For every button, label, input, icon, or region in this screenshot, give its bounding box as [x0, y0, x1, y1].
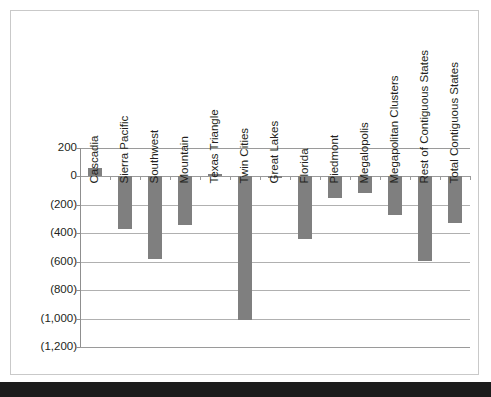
x-axis-minor-tick: [470, 176, 471, 180]
x-axis-category-label: Great Lakes: [269, 121, 281, 184]
bar[interactable]: [418, 176, 431, 260]
x-axis-minor-tick: [200, 176, 201, 180]
x-axis-category-label: Total Contiguous States: [449, 62, 461, 183]
gridline: [80, 205, 470, 206]
x-axis-minor-tick: [170, 176, 171, 180]
x-axis-minor-tick: [110, 176, 111, 180]
bar[interactable]: [238, 176, 251, 320]
y-axis-tick-label: (400): [19, 228, 77, 240]
y-axis-tick-label: (1,000): [19, 313, 77, 325]
y-axis-tick: [76, 205, 81, 206]
y-axis-tick-labels: 2000(200)(400)(600)(800)(1,000)(1,200): [19, 11, 77, 374]
x-axis-minor-tick: [290, 176, 291, 180]
x-axis-category-label: Rest of Contiguous States: [419, 50, 431, 184]
gridline: [80, 319, 470, 320]
y-axis-tick: [76, 319, 81, 320]
x-axis-category-label: Megalopolis: [359, 123, 371, 184]
y-axis-tick-label: 200: [19, 142, 77, 154]
x-axis-category-label: Cascadia: [89, 136, 101, 184]
y-axis-tick: [76, 262, 81, 263]
x-axis-minor-tick: [410, 176, 411, 180]
x-axis-minor-tick: [380, 176, 381, 180]
bar[interactable]: [298, 176, 311, 239]
bar[interactable]: [148, 176, 161, 259]
y-axis-tick: [76, 290, 81, 291]
x-axis-minor-tick: [230, 176, 231, 180]
x-axis-minor-tick: [260, 176, 261, 180]
y-axis-tick: [76, 233, 81, 234]
x-axis-category-label: Megapolitan Clusters: [389, 76, 401, 184]
bar[interactable]: [178, 176, 191, 224]
bar[interactable]: [118, 176, 131, 228]
x-axis-category-label: Mountain: [179, 137, 191, 184]
x-axis-category-label: Twin Cities: [239, 128, 251, 184]
y-axis-tick-label: (200): [19, 199, 77, 211]
y-axis-tick: [76, 176, 81, 177]
x-axis-minor-tick: [320, 176, 321, 180]
x-axis-minor-tick: [350, 176, 351, 180]
x-axis-category-label: Sierra Pacific: [119, 116, 131, 184]
bottom-edge-strip: [0, 382, 491, 397]
x-axis-category-label: Florida: [299, 149, 311, 184]
y-axis-tick-label: (1,200): [19, 341, 77, 353]
gridline: [80, 233, 470, 234]
x-axis-category-label: Southwest: [149, 130, 161, 184]
plot-area: CascadiaSierra PacificSouthwestMountainT…: [80, 11, 470, 374]
y-axis-tick-label: 0: [19, 171, 77, 183]
x-axis-minor-tick: [440, 176, 441, 180]
chart-plot-wrapper: 2000(200)(400)(600)(800)(1,000)(1,200) C…: [11, 11, 478, 374]
x-axis-minor-tick: [140, 176, 141, 180]
y-axis-line: [80, 148, 81, 347]
x-axis-category-label: Texas Triangle: [209, 110, 221, 184]
x-axis-category-label: Piedmont: [329, 135, 341, 184]
y-axis-tick-label: (600): [19, 256, 77, 268]
chart-frame: 2000(200)(400)(600)(800)(1,000)(1,200) C…: [10, 10, 479, 375]
x-axis-bottom-line: [80, 347, 470, 348]
gridline: [80, 262, 470, 263]
y-axis-tick-label: (800): [19, 284, 77, 296]
y-axis-tick: [76, 148, 81, 149]
gridline: [80, 290, 470, 291]
